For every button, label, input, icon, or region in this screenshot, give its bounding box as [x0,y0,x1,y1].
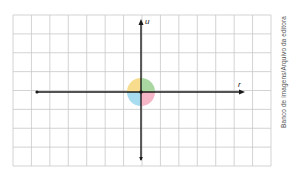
diagram: u r Banco de imagens/Arquivo da editora [0,0,295,178]
r-axis-label: r [238,80,241,89]
r-axis-start-dot [35,90,38,93]
coordinate-grid [0,0,295,178]
image-credit: Banco de imagens/Arquivo da editora [280,16,287,128]
disc-quadrant-bottom-right [141,92,155,106]
disc-quadrant-top-left [127,78,141,92]
disc-quadrant-bottom-left [127,92,141,106]
disc-quadrant-top-right [141,78,155,92]
u-axis-arrow-icon [139,19,144,25]
u-axis-label: u [145,17,149,26]
origin-dot [139,90,143,94]
